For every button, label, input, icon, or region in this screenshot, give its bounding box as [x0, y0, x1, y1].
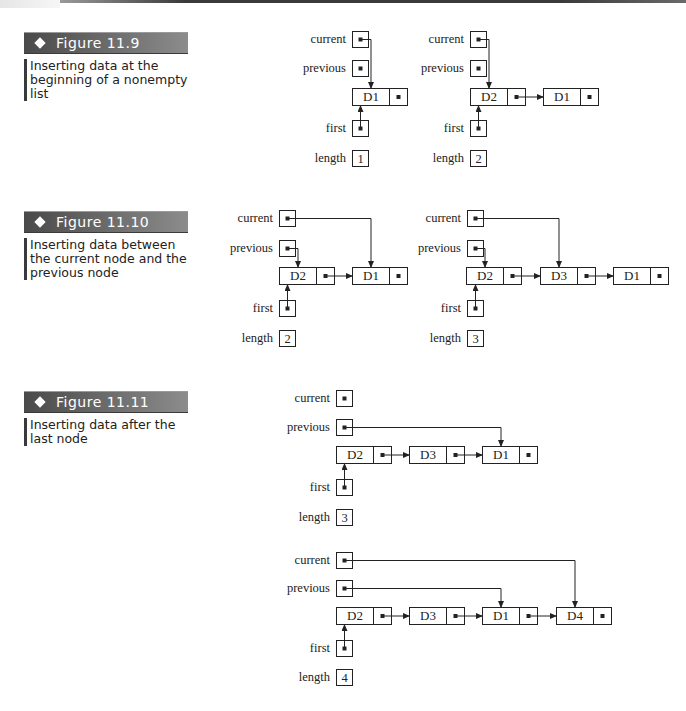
var-label-previous: previous: [230, 241, 273, 255]
var-first: first: [310, 464, 353, 496]
list-node: D2: [467, 268, 541, 285]
var-current: current: [295, 391, 353, 407]
list-diagram: D2D3D1currentpreviousfirstlength3: [418, 211, 669, 347]
list-diagram: D2D1currentpreviousfirstlength2: [421, 32, 599, 167]
node-data-label: D2: [481, 89, 497, 104]
node-data-label: D1: [493, 447, 509, 462]
list-node: D1: [483, 447, 538, 464]
length-value: 4: [341, 671, 348, 685]
list-node: D2: [337, 447, 410, 464]
list-node: D2: [471, 89, 544, 106]
var-label-length: length: [433, 151, 465, 165]
list-node: D2: [337, 608, 410, 625]
var-first: first: [444, 106, 487, 137]
list-diagram: D2D3D1D4currentpreviousfirstlength4: [287, 553, 612, 686]
node-data-label: D3: [420, 447, 436, 462]
pointer-dot-icon: [397, 274, 401, 278]
var-label-current: current: [429, 32, 465, 46]
var-label-previous: previous: [303, 61, 346, 75]
var-first: first: [441, 285, 484, 317]
node-data-label: D1: [363, 268, 379, 283]
pointer-dot-icon: [397, 95, 401, 99]
var-length: length3: [299, 510, 353, 526]
previous-pointer-arrow: [345, 589, 502, 608]
var-current: current: [295, 553, 575, 608]
list-node: D3: [410, 608, 483, 625]
var-previous: previous: [230, 241, 298, 268]
length-value: 2: [475, 152, 481, 166]
current-pointer-arrow: [288, 219, 372, 268]
pointer-dot-icon: [477, 67, 481, 71]
var-label-previous: previous: [418, 241, 461, 255]
previous-pointer-arrow: [345, 428, 502, 447]
var-length: length4: [299, 670, 353, 686]
list-node: D3: [541, 268, 614, 285]
var-label-previous: previous: [287, 420, 330, 434]
current-pointer-arrow: [345, 561, 576, 608]
var-label-first: first: [310, 480, 331, 494]
var-length: length2: [433, 151, 487, 167]
var-label-length: length: [299, 510, 331, 524]
var-length: length1: [315, 151, 369, 167]
list-node: D1: [614, 268, 669, 285]
var-length: length2: [242, 331, 296, 347]
node-data-label: D2: [477, 268, 493, 283]
var-label-first: first: [441, 301, 462, 315]
var-label-length: length: [242, 331, 274, 345]
node-data-label: D1: [493, 608, 509, 623]
node-data-label: D1: [624, 268, 640, 283]
var-first: first: [310, 625, 353, 657]
list-node: D1: [544, 89, 599, 106]
node-data-label: D3: [551, 268, 567, 283]
node-data-label: D1: [554, 89, 570, 104]
var-label-previous: previous: [421, 61, 464, 75]
list-diagram: D2D3D1currentpreviousfirstlength3: [287, 391, 538, 526]
var-previous: previous: [287, 420, 501, 447]
var-label-first: first: [444, 121, 465, 135]
var-label-previous: previous: [287, 581, 330, 595]
var-length: length3: [430, 331, 484, 347]
var-label-current: current: [295, 391, 331, 405]
var-previous: previous: [287, 581, 501, 608]
list-node: D2: [280, 268, 353, 285]
list-diagram: D1currentpreviousfirstlength1: [303, 32, 408, 167]
var-label-length: length: [299, 670, 331, 684]
list-node: D1: [353, 89, 408, 106]
var-label-current: current: [426, 211, 462, 225]
pointer-dot-icon: [588, 95, 592, 99]
var-label-current: current: [311, 32, 347, 46]
pointer-dot-icon: [343, 397, 347, 401]
list-diagram: D2D1currentpreviousfirstlength2: [230, 211, 408, 347]
var-previous: previous: [303, 61, 369, 77]
current-pointer-arrow: [476, 219, 560, 268]
var-label-first: first: [310, 641, 331, 655]
list-node: D1: [483, 608, 557, 625]
var-first: first: [253, 285, 296, 317]
length-value: 1: [357, 152, 363, 166]
node-data-label: D2: [290, 268, 306, 283]
pointer-dot-icon: [658, 274, 662, 278]
list-node: D4: [557, 608, 612, 625]
node-data-label: D2: [347, 447, 363, 462]
node-data-label: D4: [567, 608, 583, 623]
var-current: current: [311, 32, 371, 89]
var-current: current: [426, 211, 559, 268]
list-node: D3: [410, 447, 483, 464]
length-value: 3: [341, 511, 347, 525]
length-value: 3: [472, 332, 478, 346]
length-value: 2: [284, 332, 290, 346]
var-label-current: current: [295, 553, 331, 567]
linked-list-diagrams: D1currentpreviousfirstlength1D2D1current…: [0, 0, 686, 711]
var-label-current: current: [238, 211, 274, 225]
var-current: current: [238, 211, 371, 268]
pointer-dot-icon: [359, 67, 363, 71]
pointer-dot-icon: [527, 453, 531, 457]
list-node: D1: [353, 268, 408, 285]
pointer-dot-icon: [601, 614, 605, 618]
var-current: current: [429, 32, 489, 89]
node-data-label: D2: [347, 608, 363, 623]
var-previous: previous: [421, 61, 487, 77]
var-previous: previous: [418, 241, 485, 268]
var-label-first: first: [253, 301, 274, 315]
var-label-length: length: [315, 151, 347, 165]
